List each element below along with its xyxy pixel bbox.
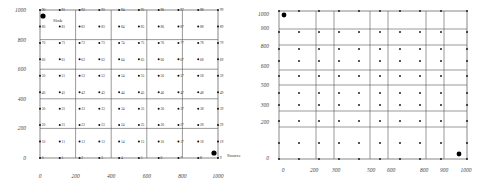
node-label: 62 bbox=[81, 58, 85, 62]
node-label: 43 bbox=[101, 91, 105, 95]
sensor-node bbox=[318, 104, 320, 106]
sensor-node bbox=[177, 58, 179, 60]
sensor-node bbox=[98, 75, 100, 77]
sensor-node bbox=[59, 108, 61, 110]
sensor-node bbox=[98, 58, 100, 60]
sensor-node bbox=[79, 75, 81, 77]
node-label: 7 bbox=[180, 156, 182, 160]
sensor-node bbox=[98, 124, 100, 126]
sensor-node bbox=[440, 48, 442, 50]
sensor-node bbox=[177, 9, 179, 11]
sensor-node bbox=[197, 25, 199, 27]
x-tick-label: 800 bbox=[178, 173, 187, 179]
sensor-node bbox=[177, 75, 179, 77]
sensor-node bbox=[318, 60, 320, 62]
sensor-node bbox=[79, 141, 81, 143]
node-label: 20 bbox=[42, 123, 46, 127]
node-label: 26 bbox=[160, 123, 164, 127]
y-tick-label: 500 bbox=[261, 82, 270, 88]
sensor-node bbox=[79, 9, 81, 11]
node-label: 49 bbox=[220, 91, 224, 95]
node-label: 92 bbox=[81, 8, 85, 12]
sensor-node bbox=[79, 108, 81, 110]
x-tick-label: 0 bbox=[282, 167, 285, 173]
sensor-node bbox=[379, 60, 381, 62]
sensor-node bbox=[466, 75, 468, 77]
node-label: 13 bbox=[101, 140, 105, 144]
sensor-node bbox=[217, 75, 219, 77]
sensor-node bbox=[278, 60, 280, 62]
sensor-node bbox=[158, 25, 160, 27]
y-tick-label: 200 bbox=[261, 119, 270, 125]
sensor-node bbox=[59, 25, 61, 27]
sensor-node bbox=[59, 157, 61, 159]
sensor-node bbox=[217, 108, 219, 110]
sensor-node bbox=[379, 31, 381, 33]
node-label: 48 bbox=[200, 91, 204, 95]
node-label: 38 bbox=[200, 107, 204, 111]
node-label: 18 bbox=[200, 140, 204, 144]
sensor-node bbox=[318, 158, 320, 160]
sensor-node bbox=[278, 92, 280, 94]
sensor-node bbox=[217, 141, 219, 143]
x-tick-label: 900 bbox=[440, 167, 449, 173]
sensor-node bbox=[338, 75, 340, 77]
sensor-node bbox=[217, 157, 219, 159]
sensor-node bbox=[39, 25, 41, 27]
sensor-node bbox=[358, 158, 360, 160]
node-label: 9 bbox=[220, 156, 222, 160]
node-label: 29 bbox=[220, 123, 224, 127]
sensor-node bbox=[39, 141, 41, 143]
node-label: 4 bbox=[121, 156, 123, 160]
sensor-node bbox=[138, 91, 140, 93]
source-label: Source bbox=[227, 153, 242, 158]
node-label: 51 bbox=[62, 74, 66, 78]
sensor-node bbox=[338, 92, 340, 94]
sensor-node bbox=[318, 10, 320, 12]
sensor-node bbox=[138, 157, 140, 159]
sensor-node bbox=[138, 9, 140, 11]
x-tick-label: 300 bbox=[331, 167, 341, 173]
sensor-node bbox=[466, 10, 468, 12]
sensor-node bbox=[466, 92, 468, 94]
sensor-node bbox=[177, 25, 179, 27]
sensor-node bbox=[118, 124, 120, 126]
sensor-node bbox=[197, 9, 199, 11]
x-tick-label: 200 bbox=[71, 173, 80, 179]
sensor-node bbox=[298, 158, 300, 160]
sensor-node bbox=[118, 141, 120, 143]
node-label: 33 bbox=[101, 107, 105, 111]
sensor-node bbox=[278, 31, 280, 33]
sensor-node bbox=[358, 48, 360, 50]
node-label: 46 bbox=[160, 91, 164, 95]
node-label: 65 bbox=[141, 58, 145, 62]
node-label: 28 bbox=[200, 123, 204, 127]
sensor-node bbox=[298, 31, 300, 33]
x-tick-label: 200 bbox=[310, 167, 319, 173]
x-tick-label: 1000 bbox=[461, 167, 472, 173]
node-label: 90 bbox=[42, 8, 46, 12]
sensor-node bbox=[158, 75, 160, 77]
sensor-node bbox=[399, 104, 401, 106]
sensor-node bbox=[466, 158, 468, 160]
node-label: 78 bbox=[200, 41, 204, 45]
node-label: 84 bbox=[121, 25, 125, 29]
node-label: 80 bbox=[42, 25, 46, 29]
node-label: 93 bbox=[101, 8, 105, 12]
node-label: 59 bbox=[220, 74, 224, 78]
node-label: 6 bbox=[160, 156, 162, 160]
sensor-node bbox=[98, 91, 100, 93]
node-label: 58 bbox=[200, 74, 204, 78]
sensor-node bbox=[39, 75, 41, 77]
node-label: 68 bbox=[200, 58, 204, 62]
sensor-node bbox=[197, 42, 199, 44]
sensor-node bbox=[158, 9, 160, 11]
x-tick-label: 500 bbox=[367, 167, 376, 173]
node-label: 23 bbox=[101, 123, 105, 127]
node-label: 15 bbox=[141, 140, 145, 144]
sensor-node bbox=[466, 31, 468, 33]
sink-label: Sink bbox=[53, 18, 63, 23]
sensor-node bbox=[118, 75, 120, 77]
node-label: 88 bbox=[200, 25, 204, 29]
node-label: 36 bbox=[160, 107, 164, 111]
